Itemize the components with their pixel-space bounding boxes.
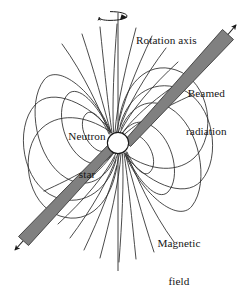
label-magnetic-field-line2: field [145,275,213,288]
label-neutron-star: Neutron star [52,105,122,205]
label-beamed-radiation-line2: radiation [186,125,227,138]
rotation-direction-arrow [99,12,127,21]
label-neutron-star-line2: star [52,168,122,181]
label-rotation-axis-text: Rotation axis [136,34,197,47]
label-beamed-radiation-line1: Beamed [186,87,227,100]
label-beamed-radiation: Beamed radiation [186,62,227,162]
label-magnetic-field: Magnetic field [145,212,213,289]
label-neutron-star-line1: Neutron [52,130,122,143]
label-magnetic-field-line1: Magnetic [145,237,213,250]
